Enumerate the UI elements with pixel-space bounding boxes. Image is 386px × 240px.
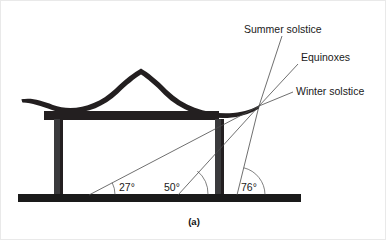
roof-left-tip-detail xyxy=(22,99,40,104)
leader-lines-group xyxy=(259,36,298,106)
building-group xyxy=(18,69,301,202)
label-summer-solstice: Summer solstice xyxy=(244,23,322,35)
angle-label-winter: 27° xyxy=(119,181,135,193)
figure-caption: (a) xyxy=(188,216,200,227)
label-winter-solstice: Winter solstice xyxy=(296,85,364,97)
leader-equinoxes xyxy=(259,64,298,106)
angle-label-equinox: 50° xyxy=(164,181,180,193)
ground-platform xyxy=(18,194,301,202)
arc-50 xyxy=(197,171,208,195)
roof-curve xyxy=(22,69,260,119)
leader-winter-solstice xyxy=(259,92,293,106)
leader-summer-solstice xyxy=(259,36,282,106)
column-left-shade xyxy=(60,119,63,195)
roof-beam xyxy=(44,111,219,120)
solar-angle-diagram: 27° 50° 76° Summer solstice Equinoxes Wi… xyxy=(1,1,386,240)
figure-panel: 27° 50° 76° Summer solstice Equinoxes Wi… xyxy=(0,0,386,240)
column-right-shade xyxy=(221,119,224,195)
arc-27 xyxy=(112,183,115,195)
label-equinoxes: Equinoxes xyxy=(301,51,350,63)
angle-label-summer: 76° xyxy=(241,181,257,193)
